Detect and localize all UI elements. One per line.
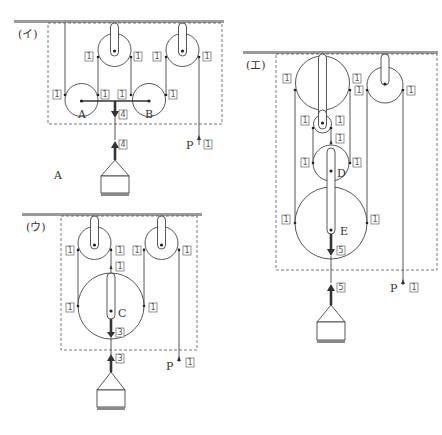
tension-tag: 1: [116, 246, 124, 255]
svg-text:1: 1: [411, 283, 416, 292]
svg-text:3: 3: [117, 328, 122, 337]
tension-tag: 1: [149, 303, 157, 312]
force-arrow-down: [111, 111, 119, 118]
force-arrow-up: [107, 354, 115, 361]
tension-tag: 1: [407, 86, 415, 95]
tension-tag: 1: [353, 158, 361, 167]
svg-text:1: 1: [302, 158, 307, 167]
svg-text:3: 3: [117, 354, 122, 363]
svg-text:1: 1: [54, 90, 59, 99]
pull-arrow: [401, 279, 405, 284]
svg-text:1: 1: [372, 215, 377, 224]
tension-tag: 1: [353, 74, 361, 83]
tension-tag: 1: [355, 86, 363, 95]
svg-text:5: 5: [338, 283, 343, 292]
ceiling: [14, 20, 224, 23]
diagram-e: (エ) D E: [243, 51, 438, 343]
svg-text:1: 1: [408, 86, 413, 95]
pulley-label-c: C: [118, 307, 126, 320]
svg-text:5: 5: [338, 246, 343, 255]
tension-tag: 1: [53, 90, 61, 99]
tension-tag: 1: [282, 215, 290, 224]
svg-text:1: 1: [154, 52, 159, 61]
tension-tag-axle: 1: [336, 134, 344, 143]
tension-tag-axle: 1: [116, 262, 124, 271]
svg-text:1: 1: [283, 215, 288, 224]
ceiling: [243, 51, 438, 54]
weight: [317, 305, 345, 343]
svg-text:1: 1: [205, 140, 210, 149]
svg-text:1: 1: [337, 116, 342, 125]
weight: [101, 160, 129, 196]
svg-text:1: 1: [134, 246, 139, 255]
pulley-diagrams: (イ) A B: [0, 0, 442, 435]
diagram-title: (イ): [18, 28, 38, 41]
svg-text:4: 4: [120, 110, 125, 119]
tension-tag: 1: [134, 52, 142, 61]
svg-text:1: 1: [86, 52, 91, 61]
tension-tag-load: 4: [119, 140, 127, 149]
tension-tag: 1: [101, 90, 109, 99]
tension-tag: 1: [169, 90, 177, 99]
svg-text:1: 1: [67, 246, 72, 255]
pull-arrow: [177, 356, 181, 361]
tension-tag-bar: 4: [119, 110, 127, 119]
pulley-label-a: A: [77, 108, 87, 121]
svg-text:1: 1: [184, 246, 189, 255]
svg-text:1: 1: [67, 303, 72, 312]
tension-tag-load: 5: [337, 283, 345, 292]
force-arrow-up: [327, 284, 335, 291]
svg-text:1: 1: [117, 246, 122, 255]
svg-text:1: 1: [170, 90, 175, 99]
pulley-label-e: E: [340, 225, 348, 238]
svg-text:1: 1: [117, 262, 122, 271]
svg-text:1: 1: [150, 303, 155, 312]
svg-text:1: 1: [135, 52, 140, 61]
pull-label: P: [186, 139, 194, 152]
tension-tag-bar: 5: [337, 246, 345, 255]
tension-tag-load: 3: [116, 354, 124, 363]
tension-tag: 1: [118, 90, 126, 99]
stray-label: A: [53, 169, 63, 182]
pull-arrow: [197, 135, 201, 140]
ceiling: [22, 213, 202, 216]
svg-text:4: 4: [120, 140, 125, 149]
svg-text:1: 1: [119, 90, 124, 99]
pulley-label-b: B: [145, 108, 153, 121]
pulley-label-d: D: [337, 167, 346, 180]
diagram-i: (イ) A B: [14, 20, 224, 196]
svg-text:1: 1: [102, 90, 107, 99]
svg-text:1: 1: [354, 158, 359, 167]
tension-tag: 1: [85, 52, 93, 61]
force-arrow-up: [111, 141, 119, 148]
tension-tag: 1: [301, 116, 309, 125]
tension-tag: 1: [133, 246, 141, 255]
pull-label: P: [166, 360, 174, 373]
weight: [97, 372, 125, 410]
svg-text:1: 1: [204, 52, 209, 61]
tension-tag: 1: [66, 303, 74, 312]
pull-label: P: [390, 282, 398, 295]
svg-text:1: 1: [337, 134, 342, 143]
tension-tag: 1: [336, 116, 344, 125]
diagram-u: (ウ) C 1 1 1 1 1 1: [22, 213, 202, 410]
svg-text:1: 1: [356, 86, 361, 95]
tension-tag-bar: 3: [116, 328, 124, 337]
diagram-title: (エ): [246, 59, 266, 72]
tension-tag: 1: [283, 74, 291, 83]
tension-tag: 1: [183, 246, 191, 255]
svg-text:1: 1: [354, 74, 359, 83]
diagram-title: (ウ): [26, 221, 46, 234]
tension-tag: 1: [301, 158, 309, 167]
tension-tag: 1: [371, 215, 379, 224]
tension-tag: 1: [203, 52, 211, 61]
tension-tag-pull: 1: [410, 283, 418, 292]
svg-text:1: 1: [187, 358, 192, 367]
tension-tag-pull: 1: [186, 358, 194, 367]
svg-text:1: 1: [284, 74, 289, 83]
tension-tag: 1: [66, 246, 74, 255]
tension-tag: 1: [153, 52, 161, 61]
tension-tag-pull: 1: [204, 140, 212, 149]
svg-text:1: 1: [302, 116, 307, 125]
